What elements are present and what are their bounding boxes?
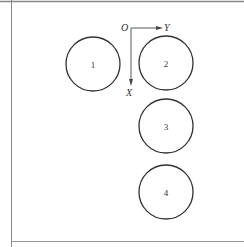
- circle-2-label: 2: [164, 59, 169, 69]
- y-axis-arrow-icon: [156, 26, 163, 30]
- circle-1: 1: [66, 37, 120, 91]
- origin-label: O: [121, 22, 128, 33]
- circle-4-label: 4: [164, 188, 169, 198]
- circle-3-label: 3: [164, 122, 169, 132]
- circle-3: 3: [139, 99, 193, 153]
- hole-layout-diagram: O Y X 1 2 3 4: [0, 0, 244, 247]
- y-axis-label: Y: [164, 22, 171, 33]
- x-axis-arrow-icon: [129, 79, 133, 86]
- circle-2: 2: [139, 36, 193, 90]
- x-axis-label: X: [125, 87, 133, 98]
- circle-4: 4: [139, 165, 193, 219]
- circle-1-label: 1: [91, 60, 96, 70]
